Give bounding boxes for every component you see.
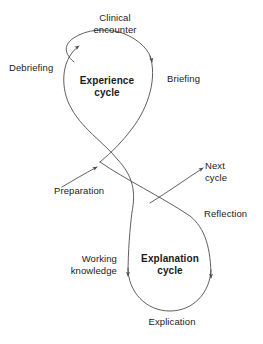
label-preparation: Preparation	[54, 185, 124, 197]
label-debriefing: Debriefing	[9, 62, 71, 74]
label-working-knowledge: Working knowledge	[42, 253, 117, 276]
label-next-cycle: Next cycle	[205, 160, 255, 183]
experience-loop-left-path	[64, 46, 118, 160]
label-clinical-encounter: Clinical encounter	[78, 12, 152, 35]
next-cycle-connector-path	[150, 168, 203, 203]
label-briefing: Briefing	[167, 73, 223, 85]
label-explication: Explication	[139, 316, 205, 328]
diagram-canvas: Clinical encounter Debriefing Briefing E…	[0, 0, 263, 344]
preparation-connector-path	[62, 167, 97, 187]
experience-loop-right-lower-path	[100, 56, 153, 162]
experience-loop-right-path	[125, 34, 152, 62]
label-explanation-cycle: Explanation cycle	[131, 253, 209, 277]
label-experience-cycle: Experience cycle	[68, 75, 146, 99]
label-reflection: Reflection	[204, 208, 262, 220]
